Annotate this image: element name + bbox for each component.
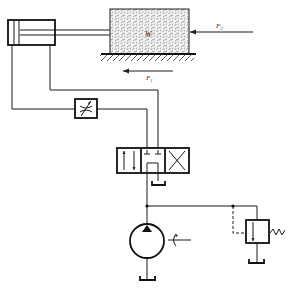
flow-control-valve: [75, 99, 97, 118]
relief-valve: [246, 220, 285, 263]
tank-valve-return: [152, 173, 165, 185]
hydraulic-pump: [130, 206, 191, 280]
ground-surface: [100, 54, 196, 61]
friction-force-arrow: F1: [123, 69, 173, 83]
force-f2-label: F2: [215, 22, 223, 31]
pressure-line: [145, 173, 257, 233]
hydraulic-cylinder: [8, 20, 110, 45]
hydraulic-circuit-diagram: W F2 F1: [0, 0, 292, 290]
directional-control-valve: [117, 148, 189, 173]
load-block: W: [110, 9, 189, 54]
external-force-arrow: F2: [190, 22, 253, 35]
force-f1-label: F1: [145, 74, 153, 83]
